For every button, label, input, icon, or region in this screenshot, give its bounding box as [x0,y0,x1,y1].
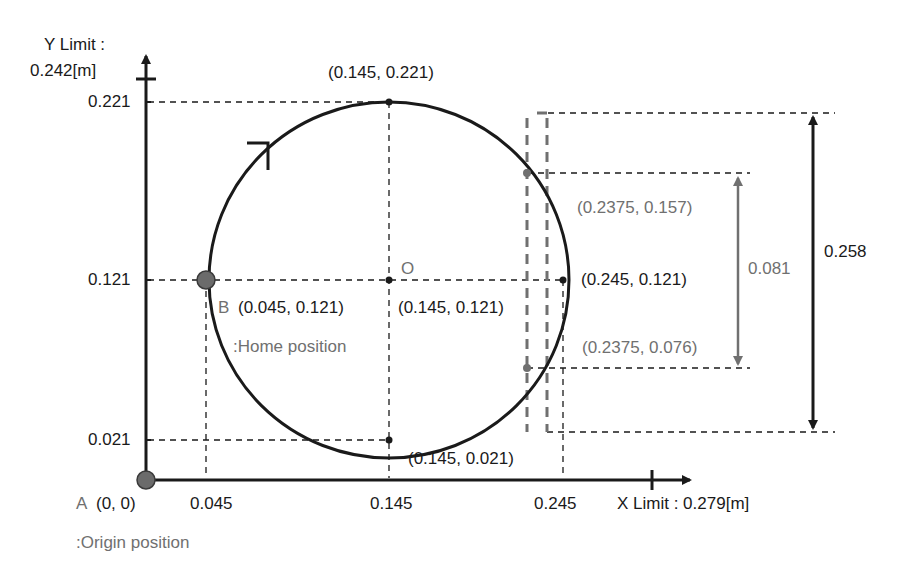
point-center-o [386,277,393,284]
x-tick-0045: 0.045 [190,495,233,512]
y-limit-value: 0.242[m] [30,62,96,79]
point-upper-cross [523,169,531,177]
x-limit-label: X Limit : 0.279[m] [617,495,749,512]
label-center-point: (0.145, 0.121) [398,299,504,316]
label-dim-081: 0.081 [748,260,791,277]
label-center-o: O [401,260,414,277]
label-top-point: (0.145, 0.221) [328,64,434,81]
y-tick-0021: 0.021 [88,431,131,448]
label-a-point: (0, 0) [96,495,136,512]
label-bottom-point: (0.145, 0.021) [408,450,514,467]
label-dim-258: 0.258 [824,243,867,260]
y-tick-0121: 0.121 [88,271,131,288]
label-lower-cross: (0.2375, 0.076) [582,339,697,356]
label-b-letter: B [218,299,229,316]
label-right-point: (0.245, 0.121) [581,271,687,288]
label-origin-position: :Origin position [76,534,189,551]
point-lower-cross [523,364,531,372]
workspace-rect [527,113,547,432]
point-right [560,277,567,284]
label-a-letter: A [76,495,87,512]
point-bottom [386,437,393,444]
y-tick-0221: 0.221 [88,93,131,110]
label-upper-cross: (0.2375, 0.157) [577,199,692,216]
x-tick-0245: 0.245 [534,495,577,512]
diagram-canvas [0,0,911,581]
guide-lines [148,102,835,478]
point-b-home [197,271,215,289]
label-home-position: :Home position [233,338,346,355]
y-limit-label: Y Limit : [44,36,105,53]
point-top [386,99,393,106]
label-b-point: (0.045, 0.121) [238,299,344,316]
x-tick-0145: 0.145 [370,495,413,512]
point-a-origin [137,471,155,489]
